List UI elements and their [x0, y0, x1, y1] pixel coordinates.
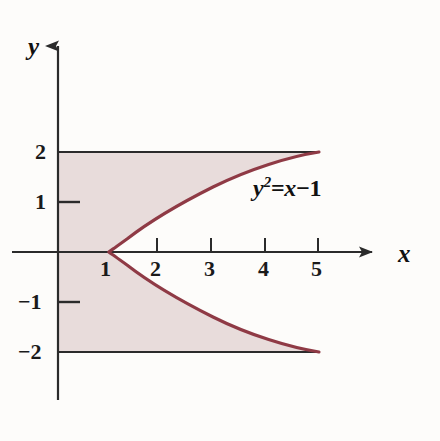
- x-tick-label-4: 4: [258, 258, 269, 280]
- equation-minus-sign: −: [296, 175, 309, 201]
- x-tick-label-5: 5: [311, 258, 322, 280]
- y-tick-label-minus1: −1: [18, 291, 42, 313]
- equation-rhs-constant: 1: [309, 175, 321, 201]
- equation-lhs-exponent: 2: [264, 174, 271, 190]
- x-axis-label: x: [398, 241, 411, 266]
- equation-lhs-var: y: [253, 175, 264, 201]
- curve-equation-label: y2=x−1: [253, 176, 321, 200]
- x-tick-label-3: 3: [204, 258, 215, 280]
- equation-rhs-var: x: [284, 175, 296, 201]
- x-tick-label-2: 2: [150, 258, 161, 280]
- parabola-figure: 1 2 3 4 5 2 1 −1 −2 y x y2=x−1: [0, 0, 440, 441]
- y-tick-label-2: 2: [35, 141, 46, 163]
- x-tick-label-1: 1: [100, 258, 111, 280]
- plot-canvas: [0, 0, 440, 441]
- y-tick-label-minus2: −2: [18, 341, 42, 363]
- equation-equals-sign: =: [271, 175, 284, 201]
- y-tick-label-1: 1: [35, 191, 46, 213]
- y-axis-label: y: [28, 34, 39, 59]
